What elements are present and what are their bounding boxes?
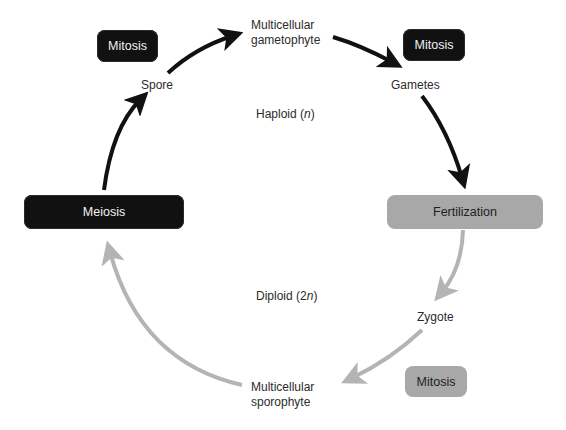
sporophyte-label: Multicellular sporophyte: [251, 380, 314, 410]
fertilization-label: Fertilization: [433, 205, 497, 219]
arrow-spore-to-gametophyte: [168, 36, 232, 73]
mitosis-box-top-left: Mitosis: [97, 30, 158, 62]
arrow-gametes-to-fertilization: [422, 96, 462, 178]
fertilization-box: Fertilization: [387, 195, 543, 229]
mitosis-label: Mitosis: [415, 38, 454, 52]
arrow-fertilization-to-zygote: [442, 230, 463, 292]
diploid-phase-label: Diploid (2n): [256, 289, 317, 304]
spore-label: Spore: [141, 78, 173, 93]
meiosis-box: Meiosis: [24, 195, 184, 229]
arrow-meiosis-to-spore: [104, 100, 140, 190]
mitosis-label: Mitosis: [108, 39, 147, 53]
gametes-label: Gametes: [391, 78, 440, 93]
mitosis-label: Mitosis: [417, 375, 456, 389]
mitosis-box-top-right: Mitosis: [403, 29, 465, 61]
arrow-sporophyte-to-meiosis: [110, 252, 242, 385]
arrow-gametophyte-to-gametes: [333, 37, 392, 62]
haploid-phase-label: Haploid (n): [256, 107, 315, 122]
meiosis-label: Meiosis: [83, 205, 125, 219]
zygote-label: Zygote: [417, 310, 454, 325]
mitosis-box-bottom-right: Mitosis: [405, 366, 467, 397]
gametophyte-label: Multicellular gametophyte: [251, 18, 320, 48]
